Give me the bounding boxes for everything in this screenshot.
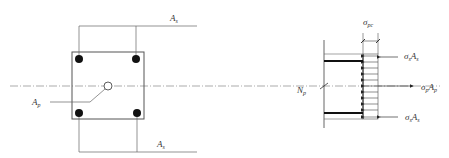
force-diagram: σpc σsAs σpAp σsAs Np — [296, 17, 437, 128]
leader-top-steel — [79, 26, 197, 55]
stress-arrows — [364, 56, 378, 117]
leader-bottom-steel — [79, 117, 197, 152]
label-bottom-steel-force: σsAs — [405, 112, 420, 123]
label-top-steel: As — [169, 13, 179, 24]
rebar-top-left — [75, 55, 83, 63]
tendon — [104, 82, 112, 90]
label-top-steel-force: σsAs — [404, 51, 419, 62]
stress-block — [363, 54, 378, 119]
label-bottom-steel: As — [156, 139, 166, 150]
cross-section: As As Ap — [31, 13, 197, 152]
label-tendon-force: σpAp — [421, 82, 437, 93]
rebar-bottom-right — [133, 109, 141, 117]
label-sigma-pc: σpc — [363, 17, 373, 28]
leader-tendon — [50, 89, 105, 102]
diagram-canvas: As As Ap — [0, 0, 449, 158]
label-axial-force: Np — [296, 85, 306, 96]
label-tendon: Ap — [31, 97, 41, 108]
rebar-top-right — [132, 55, 140, 63]
rebar-bottom-left — [75, 109, 83, 117]
